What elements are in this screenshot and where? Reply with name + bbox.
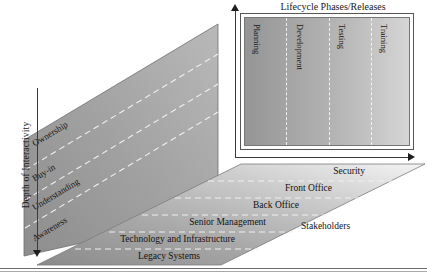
- phase-label-training: Training: [379, 24, 389, 53]
- axis-label-stakeholders: Stakeholders: [301, 221, 350, 231]
- page-divider-rule-secondary: [0, 271, 427, 272]
- stakeholders-floor-panel: Security Front Office Back Office Senior…: [35, 158, 427, 273]
- phase-divider-2: [329, 18, 330, 145]
- diagram-canvas: Ownership Buy-in Understanding Awareness: [0, 0, 427, 277]
- lifecycle-phases-panel: Planning Development Testing Training: [240, 13, 414, 150]
- stakeholder-label-technology-and-infrastructure: Technology and Infrastructure: [70, 234, 235, 244]
- stakeholder-label-legacy-systems: Legacy Systems: [50, 251, 200, 261]
- lifecycle-phases-plot: Planning Development Testing Training: [244, 17, 410, 146]
- axis-label-depth-of-interactivity: Depth of Interactivity: [21, 105, 31, 225]
- depth-vertical-axis-arrow-icon: [33, 250, 41, 257]
- stakeholder-label-front-office: Front Office: [182, 183, 332, 193]
- page-divider-rule: [0, 268, 427, 269]
- phase-label-planning: Planning: [252, 24, 262, 54]
- lifecycle-horizontal-axis: [235, 157, 411, 158]
- lifecycle-horizontal-axis-arrow-icon: [408, 153, 415, 161]
- lifecycle-vertical-axis-arrow-icon: [231, 4, 239, 11]
- phase-label-development: Development: [295, 24, 305, 70]
- phase-divider-1: [286, 18, 287, 145]
- depth-vertical-axis: [37, 88, 38, 254]
- phase-label-testing: Testing: [337, 24, 347, 49]
- stakeholder-label-senior-management: Senior Management: [116, 217, 266, 227]
- lifecycle-phases-title: Lifecycle Phases/Releases: [243, 1, 423, 12]
- phase-divider-3: [371, 18, 372, 145]
- stakeholder-label-back-office: Back Office: [149, 200, 299, 210]
- stakeholder-label-security: Security: [215, 166, 365, 176]
- lifecycle-vertical-axis: [235, 10, 236, 158]
